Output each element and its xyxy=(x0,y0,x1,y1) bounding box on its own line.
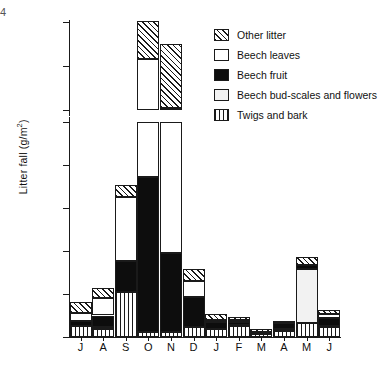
x-tick-label-5: D xyxy=(182,341,206,353)
axis-break-gap xyxy=(65,116,74,117)
x-tick-label-11: J xyxy=(317,341,341,353)
x-tick-label-4: N xyxy=(159,341,183,353)
bar-segment-d-5-other-litter xyxy=(183,269,205,281)
y-tick-220 xyxy=(63,22,69,23)
y-axis-label-tail: ) xyxy=(17,119,29,123)
bar-segment-j-11-beech-bud-scales-and-flowers xyxy=(318,326,340,328)
y-tick-80 xyxy=(63,165,69,166)
bar-segment-m-10-other-litter xyxy=(296,257,318,265)
x-tick-label-10: M xyxy=(295,341,319,353)
bar-segment-n-4-beech-leaves xyxy=(160,122,182,253)
legend-swatch-other-litter xyxy=(214,29,229,41)
legend-label-beech-fruit: Beech fruit xyxy=(237,69,287,81)
bar-segment-m-8-other-litter xyxy=(250,329,272,331)
bar-segment-f-7-beech-leaves xyxy=(228,320,250,322)
bar-segment-s-2-twigs-and-bark xyxy=(115,292,137,337)
y-axis-label: Litter fall (g/m2) xyxy=(15,77,29,237)
y-axis-label-exponent: 2 xyxy=(15,123,24,127)
legend-label-beech-bud-scales-and-flowers: Beech bud-scales and flowers xyxy=(237,89,377,101)
bar-segment-a-1-beech-leaves xyxy=(92,298,114,315)
bar-segment-j-11-beech-leaves xyxy=(318,314,340,317)
bar-segment-j-6-other-litter xyxy=(205,314,227,319)
x-tick-label-2: S xyxy=(114,341,138,353)
bar-segment-a-1-other-litter xyxy=(92,288,114,299)
bar-segment-a-1-beech-fruit xyxy=(92,316,114,328)
bar-segment-n-4-other-litter xyxy=(160,44,182,108)
bar-segment-a-1-twigs-and-bark xyxy=(92,329,114,337)
y-axis-label-main: Litter fall (g/m xyxy=(17,127,29,194)
legend-swatch-beech-bud-scales-and-flowers xyxy=(214,89,229,101)
bar-segment-j-11-twigs-and-bark xyxy=(318,327,340,337)
page-number-mark: 4 xyxy=(0,6,8,20)
legend-item-twigs-and-bark: Twigs and bark xyxy=(214,106,380,123)
y-tick-20 xyxy=(63,294,69,295)
bar-segment-m-10-beech-fruit xyxy=(296,265,318,269)
y-tick-60 xyxy=(63,208,69,209)
bar-segment-d-5-beech-fruit xyxy=(183,297,205,327)
bar-segment-a-1-beech-bud-scales-and-flowers xyxy=(92,327,114,329)
legend-item-beech-bud-scales-and-flowers: Beech bud-scales and flowers xyxy=(214,86,380,103)
chart-legend: Other litter Beech leaves Beech fruit Be… xyxy=(214,26,380,126)
bar-segment-m-8-beech-fruit xyxy=(250,332,272,334)
legend-swatch-beech-leaves xyxy=(214,49,229,61)
bar-segment-n-4-beech-leaves xyxy=(160,108,182,110)
x-tick-label-6: J xyxy=(204,341,228,353)
bar-segment-j-6-beech-leaves xyxy=(205,320,227,322)
x-tick-label-1: A xyxy=(91,341,115,353)
bar-segment-f-7-beech-bud-scales-and-flowers xyxy=(228,325,250,327)
bar-segment-d-5-twigs-and-bark xyxy=(183,327,205,337)
bar-segment-d-5-beech-leaves xyxy=(183,281,205,297)
bar-segment-o-3-other-litter xyxy=(137,21,159,60)
bar-segment-s-2-beech-leaves xyxy=(115,197,137,260)
bar-segment-n-4-beech-fruit xyxy=(160,253,182,331)
x-tick-label-7: F xyxy=(227,341,251,353)
y-tick-40 xyxy=(63,251,69,252)
bar-segment-o-3-beech-fruit xyxy=(137,177,159,332)
y-tick-0 xyxy=(63,337,69,338)
bar-segment-f-7-twigs-and-bark xyxy=(228,326,250,337)
x-axis-line xyxy=(69,337,341,338)
bar-segment-j-0-twigs-and-bark xyxy=(70,326,92,337)
legend-swatch-twigs-and-bark xyxy=(214,109,229,121)
bar-segment-o-3-beech-leaves xyxy=(137,59,159,110)
bar-segment-a-9-beech-fruit xyxy=(273,323,295,329)
bar-segment-m-10-beech-bud-scales-and-flowers xyxy=(296,269,318,323)
x-tick-label-8: M xyxy=(249,341,273,353)
legend-item-beech-fruit: Beech fruit xyxy=(214,66,380,83)
bar-segment-o-3-beech-leaves xyxy=(137,122,159,177)
y-tick-180 xyxy=(63,110,69,111)
bar-segment-a-9-other-litter xyxy=(273,321,295,323)
bar-segment-j-11-beech-fruit xyxy=(318,318,340,327)
bar-segment-j-6-beech-fruit xyxy=(205,322,227,330)
litter-fall-chart: 4 Litter fall (g/m2) 220 200 180 100 80 … xyxy=(0,0,381,379)
bar-segment-f-7-other-litter xyxy=(228,317,250,320)
legend-item-beech-leaves: Beech leaves xyxy=(214,46,380,63)
y-tick-200 xyxy=(63,66,69,67)
x-tick-label-3: O xyxy=(136,341,160,353)
legend-label-other-litter: Other litter xyxy=(237,29,286,41)
bar-segment-s-2-beech-fruit xyxy=(115,261,137,292)
bar-segment-s-2-other-litter xyxy=(115,185,137,197)
x-tick-label-0: J xyxy=(69,341,93,353)
bar-segment-m-10-twigs-and-bark xyxy=(296,323,318,337)
bar-segment-j-0-beech-leaves xyxy=(70,313,92,321)
bar-segment-j-6-twigs-and-bark xyxy=(205,329,227,337)
bar-segment-j-0-other-litter xyxy=(70,302,92,314)
x-tick-label-9: A xyxy=(272,341,296,353)
legend-label-twigs-and-bark: Twigs and bark xyxy=(237,109,308,121)
legend-item-other-litter: Other litter xyxy=(214,26,380,43)
legend-label-beech-leaves: Beech leaves xyxy=(237,49,300,61)
bar-segment-j-0-beech-fruit xyxy=(70,321,92,326)
bar-segment-j-11-other-litter xyxy=(318,310,340,314)
bar-segment-f-7-beech-fruit xyxy=(228,322,250,325)
y-axis-line xyxy=(69,20,70,338)
y-tick-100 xyxy=(63,122,69,123)
legend-swatch-beech-fruit xyxy=(214,69,229,81)
bar-segment-a-9-beech-bud-scales-and-flowers xyxy=(273,329,295,331)
